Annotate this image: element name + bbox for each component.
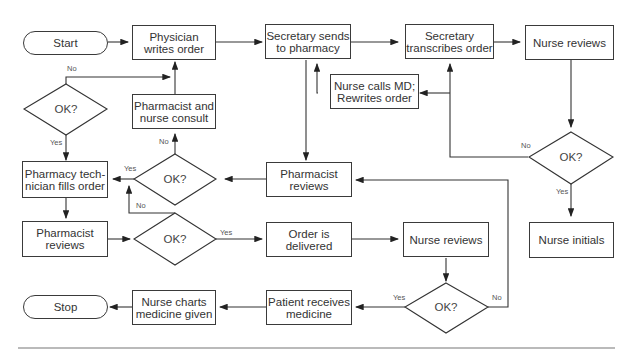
stop-label: Stop: [54, 301, 78, 313]
edge-label-no: No: [67, 64, 77, 73]
start-terminal: Start: [23, 31, 108, 55]
node-pharmacist-reviews-mid: Pharmacist reviews: [266, 162, 352, 197]
node-physician-writes-order: Physician writes order: [132, 25, 216, 60]
edge-label-yes: Yes: [556, 187, 568, 196]
node-label: Nurse reviews: [533, 37, 606, 49]
node-label: Nurse calls MD; Rewrites order: [331, 80, 418, 104]
node-pharmacist-reviews-low: Pharmacist reviews: [22, 221, 108, 257]
node-nurse-charts: Nurse charts medicine given: [132, 290, 216, 325]
node-order-delivered: Order is delivered: [266, 222, 352, 257]
edge-label-no: No: [159, 137, 169, 146]
node-label: Order is delivered: [267, 228, 351, 252]
node-label: Physician writes order: [133, 31, 215, 55]
edge-label-yes: Yes: [50, 138, 62, 147]
edge-label-yes: Yes: [393, 293, 405, 302]
edge-label-no: No: [521, 141, 531, 150]
decision-low-label: OK?: [163, 233, 186, 245]
node-pharmacy-tech-fills: Pharmacy tech-nician fills order: [22, 161, 108, 198]
node-nurse-reviews-low: Nurse reviews: [403, 222, 489, 257]
edge-label-yes: Yes: [220, 228, 232, 237]
node-label: Pharmacist and nurse consult: [133, 100, 215, 124]
node-label: Nurse initials: [539, 234, 605, 246]
node-pharmacist-nurse-consult: Pharmacist and nurse consult: [132, 94, 216, 129]
stop-terminal: Stop: [23, 295, 108, 319]
node-label: Secretary sends to pharmacy: [266, 30, 350, 54]
decision-mid-label: OK?: [163, 173, 186, 185]
node-label: Pharmacist reviews: [267, 168, 351, 192]
node-label: Nurse charts medicine given: [133, 296, 215, 320]
node-secretary-sends: Secretary sends to pharmacy: [265, 24, 351, 59]
edge-label-no: No: [136, 201, 146, 210]
decision-bottom-label: OK?: [434, 301, 457, 313]
node-label: Secretary transcribes order: [406, 30, 493, 54]
start-label: Start: [53, 37, 77, 49]
decision-right-label: OK?: [559, 151, 582, 163]
node-secretary-transcribes: Secretary transcribes order: [405, 24, 494, 59]
node-label: Pharmacist reviews: [23, 227, 107, 251]
edge-label-yes: Yes: [124, 164, 136, 173]
decision-left-label: OK?: [54, 103, 77, 115]
node-nurse-initials: Nurse initials: [529, 222, 614, 258]
node-label: Nurse reviews: [410, 234, 483, 246]
node-label: Pharmacy tech-nician fills order: [23, 168, 107, 192]
node-nurse-reviews-top: Nurse reviews: [525, 25, 614, 60]
node-label: Patient receives medicine: [267, 296, 351, 320]
node-patient-receives: Patient receives medicine: [266, 290, 352, 325]
node-nurse-calls-md: Nurse calls MD; Rewrites order: [330, 74, 419, 109]
edge-label-no: No: [492, 293, 502, 302]
